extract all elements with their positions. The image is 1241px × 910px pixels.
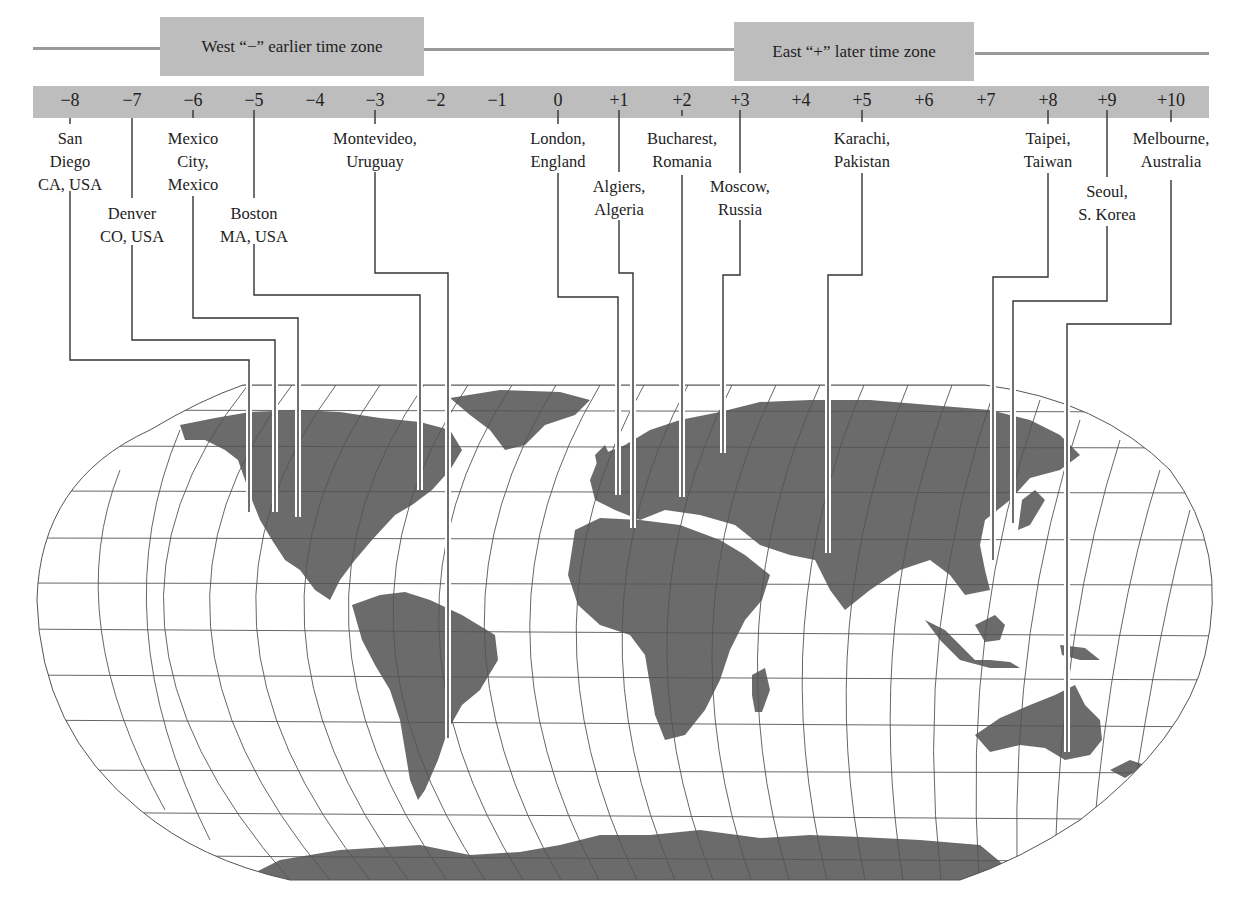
world-map xyxy=(0,0,1241,910)
